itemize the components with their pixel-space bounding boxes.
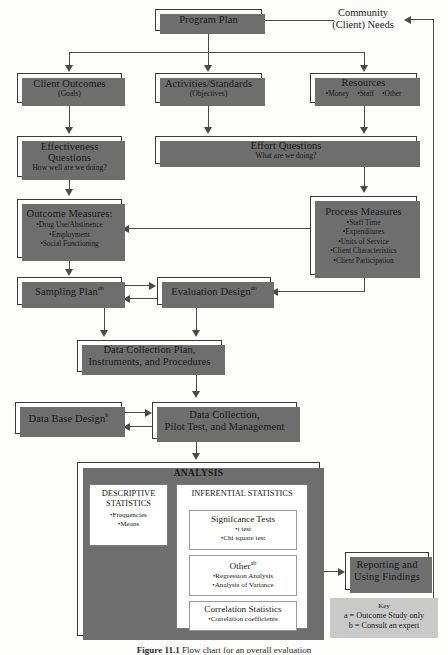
- significance-heading: Signifcance Tests: [190, 514, 296, 525]
- node-effort-questions[interactable]: Effort Questions What are we doing?: [155, 136, 417, 164]
- outcome-measures-title: Outcome Measures:: [27, 208, 113, 220]
- connector-clientoutcomes-down: [69, 103, 70, 128]
- datacollection-line1: Data Collection,: [189, 409, 259, 421]
- client-outcomes-sub: (Goals): [58, 90, 81, 99]
- node-evaluation-design[interactable]: Evaluation Designab: [157, 277, 271, 305]
- descriptive-bullet-2: •Means: [90, 520, 167, 529]
- other-superscript: ab: [251, 559, 257, 566]
- connector-dcplan-down: [196, 372, 197, 392]
- resources-bullet-other: •Other: [382, 89, 401, 98]
- figure-caption: Figure 11.1 Flow chart for an overall ev…: [0, 645, 448, 655]
- significance-bullet-1: •t test: [190, 525, 296, 534]
- node-program-plan[interactable]: Program Plan: [155, 9, 262, 31]
- arrowhead-effort-right: [360, 127, 368, 134]
- arrowhead-client-outcomes: [65, 65, 73, 72]
- node-analysis-panel[interactable]: ANALYSIS DESCRIPTIVE STATISTICS •Frequen…: [77, 462, 320, 636]
- descriptive-heading-line1: DESCRIPTIVE: [90, 489, 167, 499]
- connector-process-to-outcome: [128, 228, 310, 229]
- node-data-collection-plan[interactable]: Data Collection Plan, Instruments, and P…: [77, 340, 222, 372]
- process-bullet-5: •Client Participation: [330, 256, 396, 265]
- panel-significance-tests[interactable]: Signifcance Tests •t test •Chi square te…: [189, 510, 297, 550]
- evaluation-design-superscript: ab: [251, 284, 257, 291]
- other-heading-wrap: Otherab: [190, 559, 296, 572]
- community-needs-line1: Community: [322, 7, 404, 19]
- arrowhead-community-in: [404, 16, 411, 24]
- key-title: Key: [330, 598, 438, 610]
- arrowhead-process-measures: [360, 186, 368, 193]
- key-line-a: a = Outcome Study only: [330, 611, 438, 621]
- descriptive-bullet-1: •Frequencies: [90, 511, 167, 520]
- activities-standards-sub: (Objectives): [190, 90, 228, 99]
- arrowhead-resources: [360, 65, 368, 72]
- dcplan-line1: Data Collection Plan,: [103, 344, 195, 356]
- node-data-collection[interactable]: Data Collection, Pilot Test, and Managem…: [152, 402, 297, 439]
- activities-standards-title: Activities/Standards: [165, 78, 252, 90]
- sampling-plan-label: Sampling Plan: [35, 285, 98, 296]
- node-process-measures[interactable]: Process Measures •Staff Time •Expenditur…: [310, 196, 417, 275]
- key-line-b: b = Consult an expert: [330, 621, 438, 631]
- node-reporting-findings[interactable]: Reporting and Using Findings: [345, 552, 429, 590]
- node-client-outcomes[interactable]: Client Outcomes (Goals): [17, 73, 122, 103]
- effort-questions-title: Effort Questions: [250, 140, 321, 152]
- arrowhead-effectiveness: [65, 127, 73, 134]
- caption-label: Figure 11.1: [137, 645, 180, 655]
- node-effectiveness-questions[interactable]: Effectiveness Questions How well are we …: [17, 136, 122, 177]
- node-resources[interactable]: Resources •Money •Staff •Other: [310, 73, 417, 103]
- arrowhead-reporting: [338, 568, 345, 576]
- community-needs-line2: (Client) Needs: [322, 19, 404, 31]
- node-activities-standards[interactable]: Activities/Standards (Objectives): [155, 73, 262, 103]
- connector-sampling-to-eval: [122, 285, 150, 286]
- node-community-needs: Community (Client) Needs: [322, 7, 404, 32]
- panel-descriptive-statistics[interactable]: DESCRIPTIVE STATISTICS •Frequencies •Mea…: [89, 484, 168, 546]
- program-plan-title: Program Plan: [179, 14, 238, 26]
- flowchart-canvas: Program Plan Community (Client) Needs Cl…: [0, 0, 448, 655]
- connector-sampling-down: [104, 305, 105, 331]
- arrowhead-datacollection: [192, 391, 200, 398]
- sampling-plan-title: Sampling Planab: [35, 285, 104, 297]
- other-bullet-2: •Analysis of Variance: [190, 581, 296, 590]
- panel-correlation-statistics[interactable]: Correlation Statistics •Correlation coef…: [189, 601, 297, 631]
- other-bullet-1: •Regression Analysis: [190, 572, 296, 581]
- other-heading: Other: [230, 561, 251, 571]
- dbdesign-label: Data Base Design: [28, 412, 105, 423]
- process-bullet-1: •Staff Time: [330, 218, 396, 227]
- legend-key: Key a = Outcome Study only b = Consult a…: [330, 598, 438, 638]
- descriptive-heading-line2: STATISTICS: [90, 499, 167, 509]
- arrowhead-eval-from-sampling: [149, 282, 156, 290]
- arrowhead-dc-from-dbdesign: [145, 409, 152, 417]
- caption-text: Flow chart for an overall evaluation: [182, 645, 311, 655]
- evaluation-design-label: Evaluation Design: [171, 285, 251, 296]
- connector-eval-to-sampling: [129, 298, 157, 299]
- effort-questions-sub: What are we doing?: [256, 152, 317, 161]
- panel-other-tests[interactable]: Otherab •Regression Analysis •Analysis o…: [189, 555, 297, 596]
- connector-dbdesign-to-dc: [122, 412, 146, 413]
- arrowhead-analysis: [192, 453, 200, 460]
- outcome-bullet-2: •Employment: [36, 230, 102, 239]
- resources-title: Resources: [341, 77, 385, 89]
- dbdesign-title: Data Base Designb: [28, 412, 108, 424]
- effectiveness-sub: How well are we doing?: [32, 164, 106, 173]
- correlation-heading: Correlation Statistics: [190, 604, 296, 615]
- inferential-heading: INFERENTIAL STATISTICS: [177, 489, 307, 499]
- outcome-bullet-3: •Social Functioning: [36, 239, 102, 248]
- dbdesign-superscript: b: [105, 411, 108, 418]
- connector-right-feedback-vertical: [433, 19, 434, 602]
- arrowhead-dcplan-right: [192, 330, 200, 337]
- node-sampling-plan[interactable]: Sampling Planab: [17, 277, 122, 305]
- node-data-base-design[interactable]: Data Base Designb: [15, 402, 122, 434]
- process-measures-title: Process Measures: [325, 206, 402, 218]
- outcome-measures-bullets: •Drug Use/Abstinence •Employment •Social…: [36, 220, 102, 248]
- process-bullet-4: •Client Characteristics: [330, 246, 396, 255]
- panel-inferential-statistics[interactable]: INFERENTIAL STATISTICS Signifcance Tests…: [176, 484, 308, 629]
- node-outcome-measures[interactable]: Outcome Measures: •Drug Use/Abstinence •…: [17, 199, 122, 258]
- key-lines: a = Outcome Study only b = Consult an ex…: [330, 610, 438, 632]
- connector-programplan-down: [208, 31, 209, 53]
- arrowhead-activities: [204, 65, 212, 72]
- connector-distribution-bus: [69, 52, 365, 53]
- evaluation-design-title: Evaluation Designab: [171, 285, 257, 297]
- connector-resources-down: [364, 103, 365, 128]
- analysis-title: ANALYSIS: [78, 468, 319, 478]
- sampling-plan-superscript: ab: [98, 284, 104, 291]
- connector-activities-down: [208, 103, 209, 128]
- resources-bullet-staff: •Staff: [357, 89, 374, 98]
